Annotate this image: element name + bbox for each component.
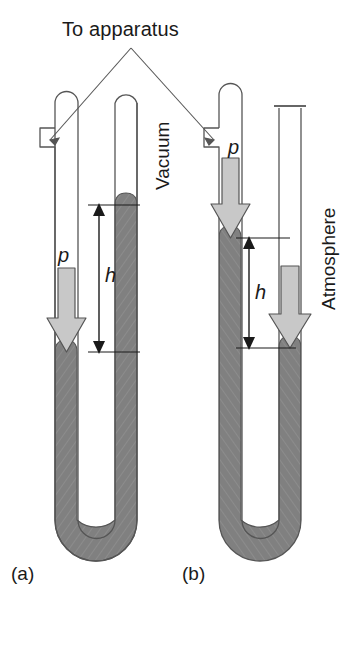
height-symbol-b: h — [255, 281, 266, 304]
vacuum-label: Vacuum — [152, 122, 174, 190]
panel-a — [40, 92, 140, 641]
pressure-symbol-a: p — [58, 244, 69, 267]
pressure-arrow-a — [47, 268, 86, 352]
atmosphere-label: Atmosphere — [318, 208, 340, 310]
panel-a-caption: (a) — [11, 563, 34, 585]
panel-b — [204, 84, 311, 641]
manometer-diagram-svg — [0, 0, 363, 646]
panel-b-caption: (b) — [182, 563, 205, 585]
manometer-figure: To apparatus (a) (b) p h p h Vacuum Atmo… — [0, 0, 363, 646]
pressure-arrow-b — [211, 158, 250, 238]
to-apparatus-label: To apparatus — [62, 18, 179, 41]
atmosphere-arrow-b — [269, 266, 311, 348]
height-symbol-a: h — [105, 264, 116, 287]
pressure-symbol-b: p — [228, 136, 239, 159]
